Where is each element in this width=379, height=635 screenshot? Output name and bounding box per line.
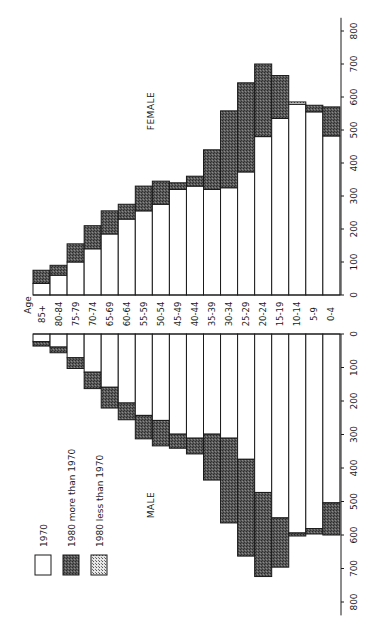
legend-label-1970: 1970 <box>39 524 49 547</box>
male-bar-1980-more <box>135 415 152 438</box>
female-bar-1970 <box>67 262 84 295</box>
male-bar-1980-more <box>255 492 272 576</box>
male-bar-1980-more <box>221 438 238 523</box>
male-bar-1980-more <box>323 503 340 535</box>
age-axis-title: Age <box>23 296 33 314</box>
male-tick-label: 100 <box>349 359 359 376</box>
female-bar-1970 <box>289 104 306 295</box>
female-bar-1970 <box>152 204 169 295</box>
male-bar-1980-more <box>50 347 67 353</box>
male-bar-1970 <box>169 334 186 434</box>
female-bar-1980-more <box>323 107 340 136</box>
female-bar-1980-more <box>152 181 169 204</box>
female-bar-1980-more <box>101 211 118 234</box>
male-bar-1980-more <box>33 342 50 346</box>
age-tick-label: 5-9 <box>309 307 319 321</box>
age-tick-label: 35-39 <box>207 302 217 327</box>
age-tick-label: 20-24 <box>258 302 268 327</box>
age-tick-label: 75-79 <box>71 302 81 327</box>
female-bar-1980-more <box>255 64 272 137</box>
female-tick-label: 600 <box>349 88 359 105</box>
male-bar-1980-more <box>101 387 118 408</box>
female-bar-1970 <box>135 211 152 295</box>
legend-swatch-more <box>63 555 79 575</box>
male-bar-1970 <box>204 334 221 434</box>
male-bar-1980-more <box>272 518 289 567</box>
male-bar-1980-more <box>289 533 306 536</box>
male-tick-label: 300 <box>349 426 359 443</box>
female-bar-1970 <box>50 275 67 295</box>
male-bar-1980-more <box>118 403 135 420</box>
population-pyramid-chart: 0100200300400500600700800 01002003004005… <box>0 0 379 635</box>
female-bar-1970 <box>221 188 238 295</box>
male-bar-1970 <box>306 334 323 529</box>
male-bar-1980-more <box>204 434 221 480</box>
male-bar-1980-more <box>84 372 101 388</box>
age-tick-label: 50-54 <box>156 302 166 327</box>
male-bar-1970 <box>152 334 169 420</box>
male-bar-1970 <box>135 334 152 415</box>
female-bar-1980-more <box>186 176 203 186</box>
age-tick-label: 80-84 <box>54 302 64 327</box>
female-tick-label: 0 <box>349 292 359 298</box>
female-bar-1970 <box>84 249 101 295</box>
female-bar-1970 <box>33 283 50 295</box>
male-tick-label: 500 <box>349 493 359 510</box>
male-bar-1980-more <box>306 529 323 534</box>
female-bar-1970 <box>255 137 272 295</box>
age-tick-label: 65-69 <box>105 302 115 327</box>
age-tick-label: 70-74 <box>88 302 98 327</box>
female-bar-1970 <box>272 118 289 295</box>
male-bar-1970 <box>323 334 340 503</box>
female-bar-1980-more <box>50 265 67 275</box>
legend-label-less: 1980 less than 1970 <box>95 454 105 547</box>
male-tick-label: 0 <box>349 331 359 337</box>
age-tick-label: 15-19 <box>275 302 285 327</box>
age-tick-label: 0-4 <box>326 307 336 321</box>
female-bar-1980-less <box>289 102 306 104</box>
male-bar-1970 <box>221 334 238 438</box>
female-bar-1970 <box>186 186 203 295</box>
male-bar-1970 <box>50 334 67 347</box>
male-label: MALE <box>146 492 156 519</box>
male-tick-label: 600 <box>349 526 359 543</box>
male-bar-1970 <box>118 334 135 403</box>
male-bar-1980-more <box>152 420 169 445</box>
male-bar-1980-more <box>186 438 203 454</box>
age-tick-label: 55-59 <box>139 302 149 327</box>
female-label: FEMALE <box>146 92 156 131</box>
male-bar-1980-more <box>238 459 255 556</box>
female-bar-1980-more <box>135 186 152 211</box>
female-bar-1980-more <box>221 111 238 188</box>
male-tick-label: 700 <box>349 560 359 577</box>
female-tick-label: 400 <box>349 154 359 171</box>
female-bar-1970 <box>238 172 255 295</box>
male-tick-label: 800 <box>349 593 359 610</box>
female-bar-1980-more <box>204 150 221 190</box>
legend-swatch-1970 <box>35 555 51 575</box>
female-bar-1980-more <box>169 183 186 190</box>
female-bar-1970 <box>306 112 323 295</box>
male-bar-1970 <box>67 334 84 358</box>
age-tick-label: 10-14 <box>292 302 302 327</box>
male-bar-1970 <box>186 334 203 438</box>
age-tick-label: 60-64 <box>122 302 132 327</box>
female-tick-label: 100 <box>349 253 359 270</box>
female-bar-1970 <box>101 234 118 295</box>
male-tick-label: 200 <box>349 392 359 409</box>
legend: 1970 1980 more than 1970 1980 less than … <box>35 449 107 575</box>
age-tick-label: 30-34 <box>224 302 234 327</box>
male-bar-1980-more <box>169 434 186 448</box>
male-bar-1970 <box>101 334 118 387</box>
age-tick-label: 85+ <box>37 305 47 323</box>
male-bar-1970 <box>33 334 50 342</box>
female-bar-1980-more <box>84 226 101 249</box>
female-bar-1980-more <box>272 76 289 119</box>
female-bar-1970 <box>169 189 186 295</box>
female-bar-1970 <box>204 189 221 295</box>
female-tick-label: 800 <box>349 22 359 39</box>
female-bars <box>33 64 340 295</box>
female-tick-label: 200 <box>349 220 359 237</box>
female-bar-1980-more <box>238 83 255 172</box>
female-bar-1980-more <box>118 204 135 219</box>
